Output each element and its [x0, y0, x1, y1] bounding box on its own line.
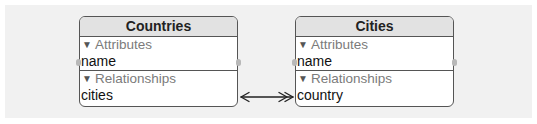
attribute-name[interactable]: name [296, 53, 453, 71]
disclosure-triangle-icon: ▼ [82, 37, 92, 53]
connector-handle-right[interactable] [236, 59, 241, 66]
relationship-country[interactable]: country [296, 87, 453, 104]
entity-countries[interactable]: Countries ▼Attributes name ▼Relationship… [79, 16, 238, 107]
attributes-label: Attributes [311, 37, 368, 52]
relationships-section-toggle[interactable]: ▼Relationships [80, 71, 237, 87]
entity-cities[interactable]: Cities ▼Attributes name ▼Relationships c… [295, 16, 454, 107]
disclosure-triangle-icon: ▼ [298, 71, 308, 87]
attributes-section-toggle[interactable]: ▼Attributes [296, 37, 453, 53]
entity-title: Cities [296, 17, 453, 37]
relationships-section-toggle[interactable]: ▼Relationships [296, 71, 453, 87]
disclosure-triangle-icon: ▼ [298, 37, 308, 53]
entity-title: Countries [80, 17, 237, 37]
relationships-label: Relationships [311, 71, 392, 86]
relationships-label: Relationships [95, 71, 176, 86]
disclosure-triangle-icon: ▼ [82, 71, 92, 87]
relationship-cities[interactable]: cities [80, 87, 237, 104]
connector-handle-left[interactable] [292, 59, 297, 66]
connector-handle-left[interactable] [76, 59, 81, 66]
attribute-name[interactable]: name [80, 53, 237, 71]
connector-handle-right[interactable] [452, 59, 457, 66]
attributes-label: Attributes [95, 37, 152, 52]
attributes-section-toggle[interactable]: ▼Attributes [80, 37, 237, 53]
